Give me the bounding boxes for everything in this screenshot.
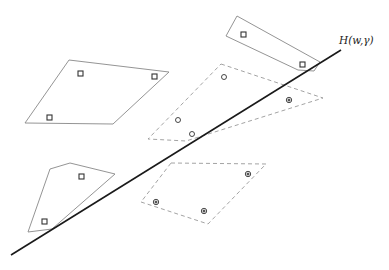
open-circle-point	[222, 75, 227, 80]
dotted-circle-point	[286, 97, 291, 102]
square-point	[47, 115, 52, 120]
open-circle-point	[176, 118, 181, 123]
cluster-upper-left	[25, 60, 169, 124]
dotted-circle-point	[201, 208, 206, 213]
convex-hull-solid	[226, 16, 320, 71]
cluster-top-right	[226, 16, 320, 71]
square-point	[300, 62, 305, 67]
hyperplane-label: H(w,γ)	[338, 34, 374, 46]
square-point	[42, 219, 47, 224]
dotted-circle-point	[153, 199, 158, 204]
cluster-lower-left	[28, 163, 115, 232]
convex-hull-solid	[28, 163, 115, 232]
separating-hyperplane	[11, 50, 341, 255]
square-point	[241, 32, 246, 37]
square-point	[79, 174, 84, 179]
hyperplane-diagram: H(w,γ)	[0, 0, 389, 270]
square-point	[152, 74, 157, 79]
convex-hull-solid	[25, 60, 169, 124]
dotted-circle-point	[245, 171, 250, 176]
square-point	[78, 71, 83, 76]
cluster-lower-right-dashed	[141, 163, 266, 224]
open-circle-point	[190, 132, 195, 137]
cluster-middle-dashed	[148, 64, 323, 141]
convex-hull-dashed	[148, 64, 323, 141]
